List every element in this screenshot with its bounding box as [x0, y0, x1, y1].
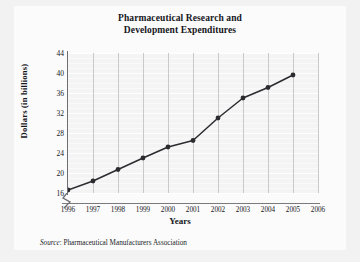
axis-break-icon: [60, 193, 74, 209]
data-point-marker: [141, 156, 146, 161]
x-axis-line: [62, 203, 320, 204]
y-tick-label: 44: [44, 49, 64, 58]
x-axis-label: Years: [120, 216, 240, 226]
chart-figure: Pharmaceutical Research and Development …: [0, 0, 360, 262]
y-tick-label: 28: [44, 129, 64, 138]
data-point-marker: [116, 167, 121, 172]
y-tick-label: 24: [44, 149, 64, 158]
plot-area: [68, 53, 318, 193]
data-point-marker: [291, 73, 296, 78]
y-tick-label: 40: [44, 69, 64, 78]
data-point-marker: [91, 179, 96, 184]
data-point-marker: [191, 138, 196, 143]
series-polyline: [68, 75, 293, 190]
y-axis-label: Dollars (in billions): [19, 41, 29, 161]
y-tick-label: 20: [44, 169, 64, 178]
data-point-marker: [266, 85, 271, 90]
data-point-marker: [166, 145, 171, 150]
y-axis-line: [67, 51, 68, 195]
chart-title-line-1: Pharmaceutical Research and: [60, 13, 300, 25]
y-tick-label: 36: [44, 89, 64, 98]
data-point-marker: [241, 96, 246, 101]
y-axis-ticks: 4440363228242016: [40, 0, 64, 262]
data-series-line: [68, 53, 318, 193]
data-point-marker: [216, 116, 221, 121]
source-prefix: Source: [40, 239, 60, 247]
chart-title: Pharmaceutical Research and Development …: [60, 13, 300, 36]
source-note: Source: Pharmaceutical Manufacturers Ass…: [40, 239, 187, 247]
source-text: Pharmaceutical Manufacturers Association: [64, 239, 187, 247]
gridline-horizontal: [68, 193, 318, 194]
y-tick-label: 32: [44, 109, 64, 118]
chart-title-line-2: Development Expenditures: [60, 25, 300, 37]
x-tick-label: 2006: [303, 206, 333, 214]
gridline-vertical: [318, 53, 319, 193]
